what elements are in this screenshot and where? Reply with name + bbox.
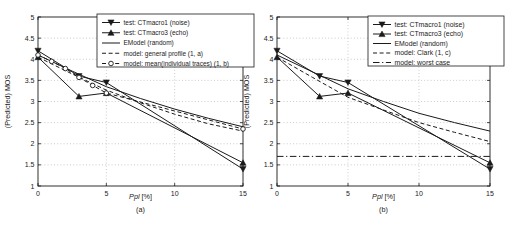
y-tick-label: 3 [270,98,274,105]
legend-label: model: worst case [395,59,451,66]
y-tick-label: 2.5 [264,119,274,126]
legend-label: model: general profile (1, a) [124,50,204,58]
y-tick-label: 1.5 [264,161,274,168]
y-tick-label: 2.5 [25,119,35,126]
x-axis-label: Ppl [%] [372,192,395,201]
y-tick-label: 3.5 [25,77,35,84]
y-tick-label: 2 [270,140,274,147]
y-tick-label: 2 [31,140,35,147]
y-tick-label: 4 [270,56,274,63]
y-tick-label: 4 [31,56,35,63]
y-tick-label: 3 [31,98,35,105]
x-tick-label: 15 [486,190,494,197]
legend-label: test: CTmacro1 (noise) [124,19,190,27]
legend-label: EModel (random) [124,39,174,47]
legend: test: CTmacro1 (noise)test: CTmacro3 (ec… [368,16,504,66]
y-tick-label: 5 [270,14,274,21]
figure-dual-mos-charts: 05101511.522.533.544.55Ppl [%](a)(Predic… [0,0,508,228]
y-tick-label: 4.5 [25,35,35,42]
y-axis-label: (Predicted) MOS [242,75,251,129]
legend-label: model: mean(individual traces) (1, b) [124,60,230,68]
charts-canvas: 05101511.522.533.544.55Ppl [%](a)(Predic… [0,0,508,228]
x-axis-label: Ppl [%] [129,192,152,201]
legend-label: test: CTmacro3 (echo) [395,30,464,38]
panel-caption: (a) [136,205,145,214]
y-axis-label: (Predicted) MOS [3,75,12,129]
y-tick-label: 5 [31,14,35,21]
y-tick-label: 3.5 [264,77,274,84]
x-tick-label: 5 [104,190,108,197]
x-tick-label: 15 [239,190,247,197]
legend-label: model: Clark (1, c) [395,49,451,57]
y-tick-label: 4.5 [264,35,274,42]
x-tick-label: 10 [415,190,423,197]
panel-caption: (b) [379,205,388,214]
x-tick-label: 5 [346,190,350,197]
y-tick-label: 1.5 [25,161,35,168]
x-tick-label: 0 [36,190,40,197]
legend: test: CTmacro1 (noise)test: CTmacro3 (ec… [97,14,254,68]
y-tick-label: 1 [270,183,274,190]
legend-label: test: CTmacro3 (echo) [124,29,189,37]
legend-label: test: CTmacro1 (noise) [395,21,465,29]
y-tick-label: 1 [31,183,35,190]
x-tick-label: 10 [171,190,179,197]
x-tick-label: 0 [275,190,279,197]
legend-label: EModel (random) [395,40,448,48]
